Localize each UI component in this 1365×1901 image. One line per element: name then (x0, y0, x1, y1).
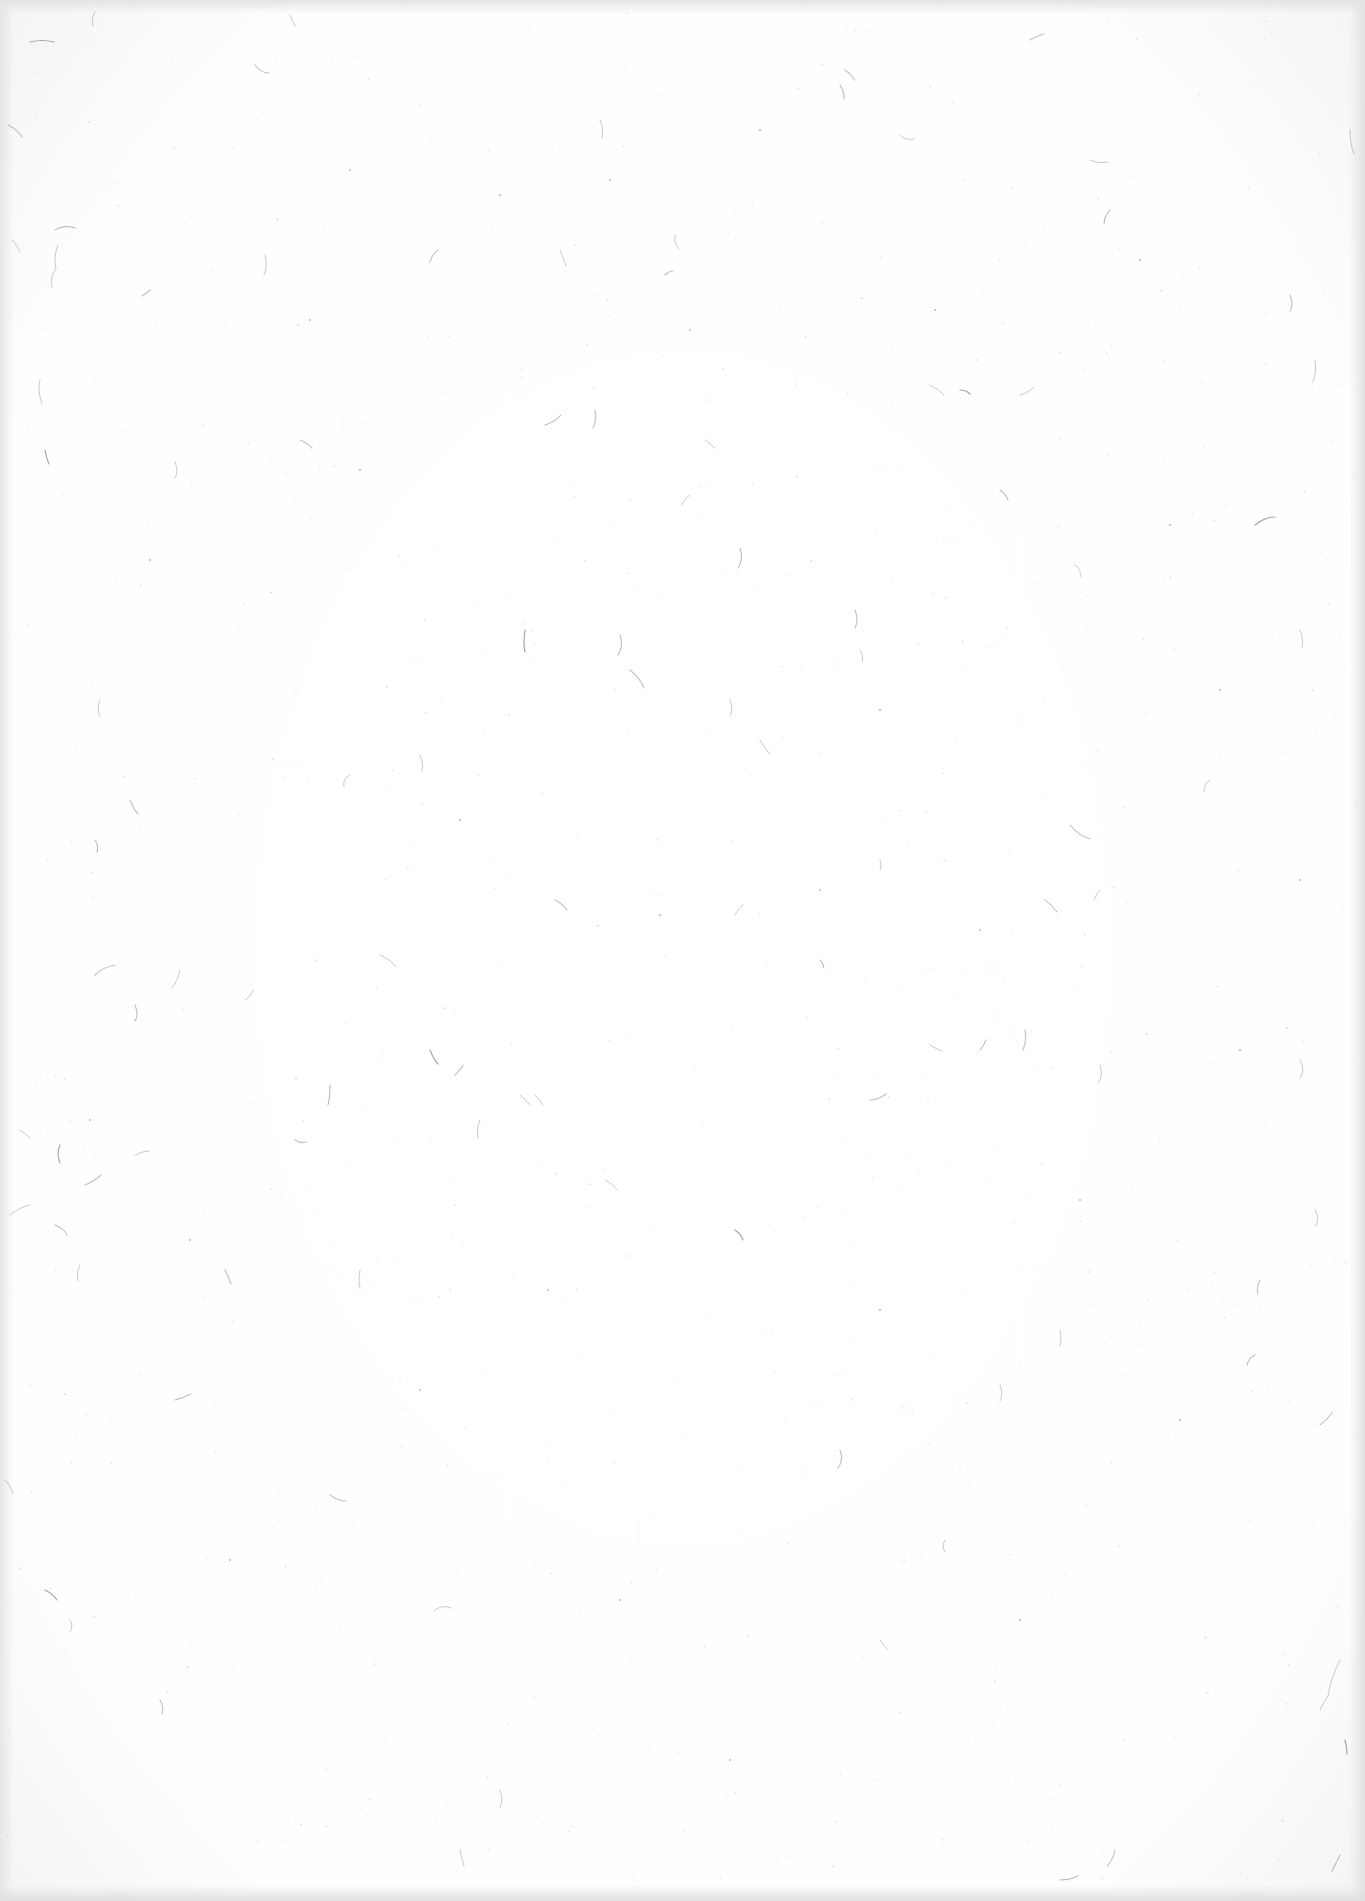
paper-dust (919, 1170, 920, 1171)
paper-dust (735, 1792, 737, 1794)
paper-dust (734, 210, 735, 211)
paper-dust (985, 142, 986, 143)
paper-dust (833, 1865, 835, 1867)
paper-dust (629, 499, 631, 501)
paper-fiber (45, 450, 49, 464)
paper-dust (538, 1161, 540, 1163)
paper-dust (510, 1044, 512, 1046)
paper-dust (609, 1040, 610, 1041)
paper-dust (1015, 1783, 1016, 1784)
paper-dust (906, 1158, 907, 1159)
paper-dust (1089, 1270, 1090, 1271)
paper-dust (413, 846, 415, 848)
paper-dust (1292, 1548, 1293, 1549)
paper-dust (91, 681, 92, 682)
paper-dust (333, 314, 334, 315)
paper-dust (27, 429, 28, 430)
paper-dust (171, 61, 172, 62)
paper-dust (987, 1039, 988, 1040)
paper-dust (681, 1345, 682, 1346)
paper-dust (166, 169, 167, 170)
paper-dust (880, 257, 881, 258)
paper-dust (992, 1725, 994, 1727)
paper-dust (1288, 1664, 1290, 1666)
paper-dust (656, 1569, 658, 1571)
paper-dust (128, 909, 129, 910)
paper-dust (676, 106, 677, 107)
paper-dust (1224, 1317, 1226, 1319)
paper-dust (1162, 579, 1163, 580)
paper-dust (86, 1414, 88, 1416)
paper-dust (862, 1657, 864, 1659)
paper-dust (372, 1415, 373, 1416)
paper-dust (1154, 1700, 1155, 1701)
paper-dust (574, 496, 575, 497)
paper-dust (657, 95, 658, 96)
paper-dust (976, 1529, 977, 1530)
paper-dust (62, 494, 64, 496)
paper-dust (0, 1392, 1, 1393)
paper-dust (53, 150, 54, 151)
paper-dust (742, 1470, 743, 1471)
paper-dust (146, 706, 147, 707)
paper-dust (551, 1573, 553, 1575)
paper-dust (71, 1462, 73, 1464)
paper-speck (499, 194, 501, 196)
paper-dust (1341, 1785, 1342, 1786)
paper-dust (124, 1205, 125, 1206)
paper-dust (950, 1024, 951, 1025)
paper-dust (927, 1100, 929, 1102)
paper-fiber (1313, 360, 1316, 382)
paper-dust (65, 1510, 66, 1511)
paper-dust (244, 603, 245, 604)
paper-dust (313, 1211, 314, 1212)
paper-dust (392, 770, 394, 772)
paper-fiber (380, 955, 396, 967)
paper-dust (1065, 1574, 1066, 1575)
paper-dust (238, 813, 240, 815)
paper-dust (1122, 807, 1124, 809)
paper-dust (504, 877, 505, 878)
paper-dust (315, 1505, 317, 1507)
paper-dust (1106, 352, 1108, 354)
paper-dust (547, 1460, 548, 1461)
paper-dust (680, 1433, 681, 1434)
paper-dust (948, 150, 949, 151)
paper-dust (1198, 1614, 1199, 1615)
paper-dust (864, 1557, 865, 1558)
paper-fiber (477, 1120, 480, 1138)
paper-speck (349, 169, 351, 171)
paper-dust (129, 6, 130, 7)
paper-dust (397, 1258, 398, 1259)
paper-dust (465, 391, 466, 392)
paper-dust (943, 1839, 945, 1841)
paper-dust (835, 663, 836, 664)
paper-dust (797, 88, 799, 90)
paper-dust (1319, 552, 1321, 554)
paper-dust (224, 760, 225, 761)
paper-dust (1262, 747, 1263, 748)
paper-dust (1028, 1841, 1030, 1843)
paper-dust (285, 1565, 287, 1567)
paper-dust (1211, 992, 1212, 993)
paper-dust (1122, 1739, 1124, 1741)
paper-dust (419, 104, 421, 106)
paper-dust (1177, 1240, 1179, 1242)
paper-dust (263, 15, 264, 16)
paper-dust (994, 1681, 996, 1683)
paper-dust (1251, 671, 1252, 672)
paper-dust (1286, 1703, 1288, 1705)
paper-dust (397, 151, 398, 152)
paper-dust (945, 1756, 946, 1757)
paper-dust (296, 766, 297, 767)
paper-speck (609, 179, 611, 181)
paper-dust (718, 1041, 719, 1042)
paper-fiber (560, 250, 566, 266)
paper-fiber (264, 255, 266, 275)
paper-dust (203, 1297, 205, 1299)
paper-dust (651, 1519, 652, 1520)
paper-dust (805, 336, 807, 338)
paper-fiber (730, 700, 732, 716)
paper-dust (111, 1463, 112, 1464)
paper-dust (774, 1371, 775, 1372)
